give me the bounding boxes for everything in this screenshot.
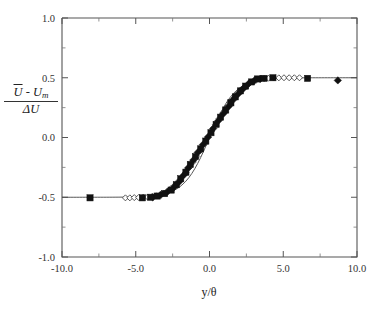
data-point-filled-square xyxy=(248,79,254,85)
data-point-filled-square xyxy=(213,121,219,127)
y-tick-label: -1.0 xyxy=(38,252,55,263)
data-point-filled-square xyxy=(187,161,193,167)
data-point-filled-square xyxy=(228,100,234,106)
x-tick-label: 0.0 xyxy=(203,263,216,274)
data-point-filled-square xyxy=(178,176,184,182)
data-point-filled-square xyxy=(304,75,310,81)
data-point-filled-square xyxy=(243,83,249,89)
data-point-filled-square xyxy=(254,76,260,82)
x-tick-label: -5.0 xyxy=(127,263,144,274)
data-point-filled-square xyxy=(147,194,153,200)
data-point-filled-square xyxy=(208,130,214,136)
y-tick-label: 0.5 xyxy=(42,73,55,84)
x-tick-label: 10.0 xyxy=(348,263,366,274)
x-tick-label: -10.0 xyxy=(51,263,73,274)
data-point-filled-square xyxy=(223,107,229,113)
data-point-filled-square xyxy=(198,146,204,152)
series-open-diamond xyxy=(122,75,302,201)
data-point-filled-square xyxy=(203,138,209,144)
data-point-filled-square xyxy=(217,114,223,120)
data-point-filled-square xyxy=(154,193,160,199)
data-point-filled-square xyxy=(161,191,167,197)
figure-container: -10.0-5.00.05.010.0 1.00.50.0-0.5-1.0 y/… xyxy=(0,0,381,312)
um-subscript: m xyxy=(42,90,49,100)
data-point-filled-square xyxy=(192,154,198,160)
y-tick-label: -0.5 xyxy=(38,192,55,203)
data-point-filled-square xyxy=(173,182,179,188)
delta-u-symbol: ΔU xyxy=(23,102,39,116)
x-axis-tick-labels: -10.0-5.00.05.010.0 xyxy=(51,263,366,274)
u-bar-symbol: U xyxy=(14,85,23,99)
data-point-filled-square xyxy=(139,195,145,201)
x-axis-title: y/θ xyxy=(201,285,216,299)
y-axis-title: U - Um ΔU xyxy=(4,86,58,117)
y-axis-numerator: U - Um xyxy=(4,86,58,102)
series-filled-square xyxy=(87,75,311,201)
y-axis-denominator: ΔU xyxy=(4,102,58,116)
data-point-open-diamond xyxy=(296,75,302,81)
y-axis-tick-labels: 1.00.50.0-0.5-1.0 xyxy=(38,13,55,263)
x-tick-label: 5.0 xyxy=(277,263,290,274)
um-symbol: U xyxy=(33,85,42,99)
data-point-filled-square xyxy=(87,195,93,201)
minus-symbol: - xyxy=(23,85,33,99)
data-point-filled-square xyxy=(261,75,267,81)
data-point-filled-square xyxy=(183,169,189,175)
y-tick-label: 1.0 xyxy=(42,13,55,24)
data-point-filled-square xyxy=(232,94,238,100)
x-axis-title-group: y/θ xyxy=(201,285,216,299)
data-point-filled-square xyxy=(270,75,276,81)
y-tick-label: 0.0 xyxy=(42,132,55,143)
chart-plot: -10.0-5.00.05.010.0 1.00.50.0-0.5-1.0 y/… xyxy=(0,0,381,312)
